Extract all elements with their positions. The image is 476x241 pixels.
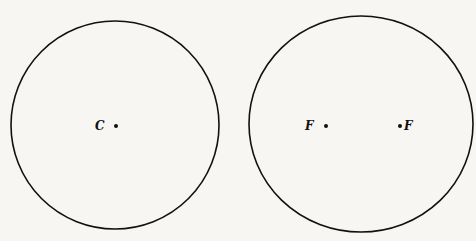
focus-label-right: F xyxy=(403,119,414,133)
center-point xyxy=(114,124,118,128)
focus-point-left xyxy=(324,124,328,128)
diagram-figure: C F F xyxy=(0,0,476,241)
right-circle-group: F F xyxy=(249,16,473,232)
focus-point-right xyxy=(398,124,402,128)
diagram-canvas: C F F xyxy=(0,0,476,241)
focus-label-left: F xyxy=(304,119,315,133)
right-circle xyxy=(249,16,473,232)
center-label-c: C xyxy=(95,119,105,133)
left-circle-group: C xyxy=(11,21,219,229)
